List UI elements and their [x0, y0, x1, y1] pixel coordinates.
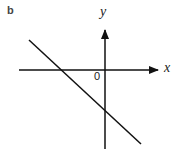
origin-label: 0 — [94, 70, 100, 82]
graph-line — [29, 40, 141, 144]
axes-graphic — [0, 0, 180, 161]
panel-label: b — [7, 4, 14, 16]
y-axis-label: y — [100, 4, 106, 20]
x-axis-label: x — [164, 60, 170, 76]
diagram: b y x 0 — [0, 0, 180, 161]
